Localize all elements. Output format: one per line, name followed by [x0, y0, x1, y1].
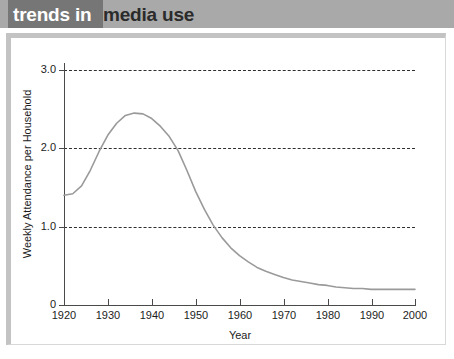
title-secondary: media use: [103, 2, 194, 28]
x-tick-label-1960: 1960: [216, 309, 264, 321]
x-tick-label-1970: 1970: [260, 309, 308, 321]
x-axis-line: [64, 305, 416, 306]
x-tick-1950: [196, 299, 197, 305]
x-tick-1930: [108, 299, 109, 305]
gridline-3: [64, 70, 415, 71]
y-tick-3: [59, 70, 65, 71]
x-axis-label: Year: [64, 329, 416, 341]
x-tick-label-1940: 1940: [128, 309, 176, 321]
x-tick-label-1950: 1950: [172, 309, 220, 321]
gridline-1: [64, 227, 415, 228]
chart-page: trends in media use 3.0 2.0 1.0 0 1920 1…: [0, 0, 454, 359]
y-tick-0: [59, 305, 65, 306]
y-axis-label: Weekly Attendance per Household: [21, 84, 33, 264]
title-banner: trends in media use: [0, 0, 454, 28]
x-tick-1960: [240, 299, 241, 305]
y-tick-2: [59, 148, 65, 149]
y-tick-1: [59, 227, 65, 228]
x-tick-label-1980: 1980: [304, 309, 352, 321]
gridline-2: [64, 148, 415, 149]
x-tick-1990: [372, 299, 373, 305]
x-tick-label-1990: 1990: [348, 309, 396, 321]
plot-area: [64, 67, 415, 305]
y-tick-label-3: 3.0: [4, 64, 56, 75]
x-tick-1980: [328, 299, 329, 305]
x-tick-1920: [64, 299, 65, 305]
x-tick-label-1920: 1920: [40, 309, 88, 321]
x-tick-1970: [284, 299, 285, 305]
x-tick-2000: [415, 299, 416, 305]
x-tick-label-2000: 2000: [391, 309, 439, 321]
x-tick-1940: [152, 299, 153, 305]
x-tick-label-1930: 1930: [84, 309, 132, 321]
y-axis-line: [64, 63, 65, 306]
